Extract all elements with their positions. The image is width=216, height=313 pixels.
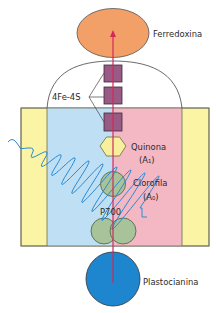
p700-circle-right <box>110 218 136 244</box>
iron-sulfur-label: 4Fe-4S <box>52 92 81 102</box>
quinone-label: Quinona <box>131 142 166 152</box>
chlorophyll-sub-label: (A₀) <box>143 192 159 202</box>
photosystem-diagram: Ferredoxina 4Fe-4S Quinona (A₁) Clorofil… <box>0 0 216 313</box>
chlorophyll-label: Clorofila <box>133 178 167 188</box>
quinone-sub-label: (A₁) <box>139 155 155 165</box>
plastocyanin-label: Plastocianina <box>143 277 198 287</box>
p700-label: P700 <box>100 207 121 217</box>
ferredoxin-label: Ferredoxina <box>153 29 202 39</box>
